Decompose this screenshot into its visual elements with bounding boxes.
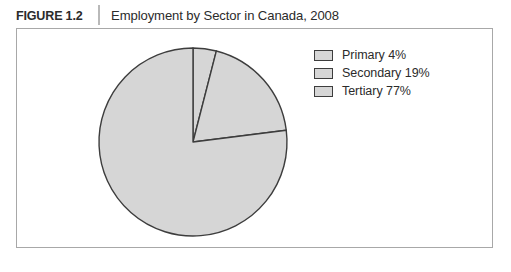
figure-number-label: FIGURE 1.2: [16, 8, 83, 23]
chart-legend: Primary 4% Secondary 19% Tertiary 77%: [314, 46, 430, 100]
header-divider: [98, 5, 100, 25]
legend-item-tertiary: Tertiary 77%: [314, 82, 430, 100]
figure-title: Employment by Sector in Canada, 2008: [111, 8, 339, 23]
legend-swatch-primary: [314, 50, 333, 61]
figure-header: FIGURE 1.2 Employment by Sector in Canad…: [16, 4, 346, 26]
legend-label-tertiary: Tertiary 77%: [342, 84, 411, 98]
legend-item-primary: Primary 4%: [314, 46, 430, 64]
legend-label-primary: Primary 4%: [342, 48, 406, 62]
legend-item-secondary: Secondary 19%: [314, 64, 430, 82]
legend-swatch-secondary: [314, 68, 333, 79]
legend-label-secondary: Secondary 19%: [342, 66, 430, 80]
figure-container: FIGURE 1.2 Employment by Sector in Canad…: [0, 0, 511, 272]
legend-swatch-tertiary: [314, 86, 333, 97]
